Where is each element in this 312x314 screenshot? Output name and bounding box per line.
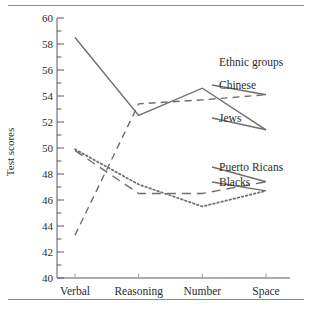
legend: Ethnic groups JewsChinesePuerto RicansBl…: [212, 56, 284, 191]
x-tick-labels: VerbalReasoningNumberSpace: [60, 285, 280, 298]
x-tick-marks: [75, 274, 266, 279]
legend-label-blacks: Blacks: [219, 176, 251, 188]
y-tick-label: 50: [42, 142, 54, 154]
y-tick-labels: 4042444648505254565860: [42, 12, 54, 284]
y-axis: 4042444648505254565860 Test scores: [4, 12, 64, 284]
y-tick-label: 40: [42, 272, 54, 284]
y-tick-label: 46: [42, 194, 54, 206]
y-tick-label: 52: [42, 116, 53, 128]
y-tick-marks: [57, 18, 64, 278]
figure-container: 4042444648505254565860 Test scores Verba…: [0, 0, 312, 314]
y-tick-label: 56: [42, 64, 54, 76]
legend-label-puerto-ricans: Puerto Ricans: [219, 161, 284, 173]
y-tick-label: 48: [42, 168, 54, 180]
legend-label-chinese: Chinese: [219, 79, 256, 91]
x-axis: VerbalReasoningNumberSpace: [57, 274, 290, 299]
legend-title: Ethnic groups: [219, 56, 284, 69]
y-tick-label: 58: [42, 38, 54, 50]
x-tick-label: Reasoning: [114, 285, 163, 298]
legend-label-jews: Jews: [219, 112, 242, 124]
y-tick-label: 60: [42, 12, 54, 24]
x-tick-label: Number: [183, 285, 221, 297]
y-axis-title: Test scores: [4, 128, 16, 176]
y-tick-label: 44: [42, 220, 54, 232]
x-tick-label: Verbal: [60, 285, 90, 297]
x-tick-label: Space: [252, 285, 279, 298]
y-tick-label: 54: [42, 90, 54, 102]
y-tick-label: 42: [42, 246, 53, 258]
line-chart: 4042444648505254565860 Test scores Verba…: [0, 0, 312, 314]
